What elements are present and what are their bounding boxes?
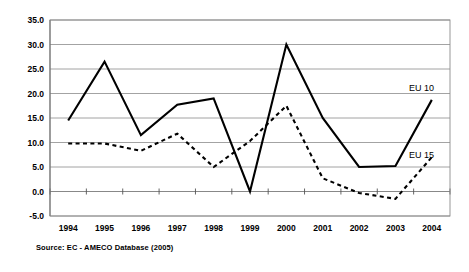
- series-line-eu15: [68, 106, 432, 199]
- y-axis-tick-label: 5.0: [32, 162, 44, 172]
- y-axis-tick-label: 15.0: [27, 113, 44, 123]
- line-chart: 35.030.025.020.015.010.05.00.0-5.0 19941…: [0, 0, 469, 272]
- x-axis-tick-label: 1996: [131, 223, 150, 233]
- x-axis-tick-labels: 1994199519961997199819992000200120022003…: [59, 223, 442, 233]
- source-note: Source: EC - AMECO Database (2005): [36, 243, 173, 252]
- y-axis-tick-label: 0.0: [32, 187, 44, 197]
- y-axis-tick-labels: 35.030.025.020.015.010.05.00.0-5.0: [27, 15, 44, 221]
- x-axis-tick-label: 1994: [59, 223, 78, 233]
- x-axis-tick-label: 2001: [313, 223, 332, 233]
- x-axis-tick-label: 1995: [95, 223, 114, 233]
- x-axis-tick-label: 2004: [422, 223, 441, 233]
- x-axis-tick-label: 2003: [386, 223, 405, 233]
- chart-figure: 35.030.025.020.015.010.05.00.0-5.0 19941…: [0, 0, 469, 272]
- x-axis-tick-label: 1997: [168, 223, 187, 233]
- y-axis-tick-label: 35.0: [27, 15, 44, 25]
- y-axis-tick-label: 20.0: [27, 89, 44, 99]
- y-axis-tick-label: 10.0: [27, 138, 44, 148]
- y-axis-tick-label: 25.0: [27, 64, 44, 74]
- series-label-eu15: EU 15: [409, 150, 434, 160]
- x-axis-tick-label: 1998: [204, 223, 223, 233]
- x-axis-tick-label: 2000: [277, 223, 296, 233]
- series-label-eu10: EU 10: [409, 83, 434, 93]
- x-axis-tick-label: 2002: [350, 223, 369, 233]
- y-axis-tick-label: -5.0: [29, 211, 44, 221]
- x-axis-tick-label: 1999: [241, 223, 260, 233]
- grid-lines: [50, 20, 450, 216]
- y-axis-tick-label: 30.0: [27, 40, 44, 50]
